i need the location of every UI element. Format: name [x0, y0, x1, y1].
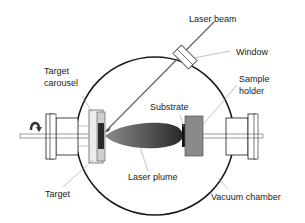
label-window: Window: [236, 47, 269, 57]
label-sample-holder-line1: Sample: [239, 74, 270, 84]
label-substrate: Substrate: [150, 102, 189, 112]
right-port: [226, 114, 258, 159]
label-target-carousel-line1: Target: [44, 66, 70, 76]
label-vacuum-chamber: Vacuum chamber: [211, 192, 281, 202]
label-sample-holder-line2: holder: [239, 86, 264, 96]
sample-holder: [185, 116, 203, 156]
rotation-arrow-icon: [31, 123, 42, 132]
label-target-carousel-line2: carousel: [44, 78, 78, 88]
label-laser-beam: Laser beam: [189, 14, 237, 24]
label-target: Target: [45, 189, 71, 199]
substrate: [182, 124, 185, 147]
target: [98, 123, 104, 149]
label-laser-plume: Laser plume: [128, 172, 178, 182]
left-port: [46, 114, 78, 159]
pld-chamber-diagram: Laser beam Window Target carousel Sample…: [0, 0, 305, 223]
